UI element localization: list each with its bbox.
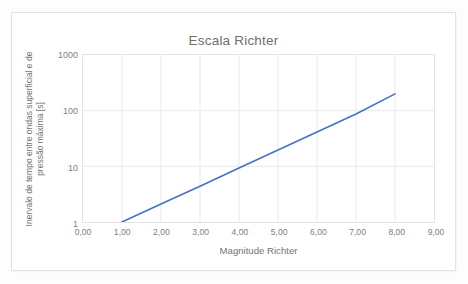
x-tick-label: 0,00 — [75, 227, 92, 237]
x-tick-label: 5,00 — [271, 227, 288, 237]
y-tick-label: 100 — [63, 106, 78, 116]
x-tick-label: 3,00 — [192, 227, 209, 237]
x-tick-label: 1,00 — [114, 227, 131, 237]
x-tick-label: 2,00 — [153, 227, 170, 237]
horizontal-gridlines — [83, 111, 434, 167]
x-tick-label: 6,00 — [310, 227, 327, 237]
x-tick-label: 8,00 — [388, 227, 405, 237]
plot-area: 1101001000 0,001,002,003,004,005,006,007… — [82, 54, 435, 223]
chart-frame: Escala Richter 1101001000 0,001,002,003,… — [11, 12, 456, 271]
y-axis-title-wrapper: Inervalo de tempo entre ondas superficia… — [20, 54, 50, 223]
y-axis-title: Inervalo de tempo entre ondas superficia… — [24, 46, 46, 232]
data-series-line — [122, 94, 395, 222]
vertical-gridlines — [122, 55, 395, 222]
y-tick-label: 10 — [68, 163, 78, 173]
chart-title: Escala Richter — [12, 33, 455, 48]
x-tick-label: 7,00 — [349, 227, 366, 237]
x-axis-title: Magnitude Richter — [82, 245, 435, 256]
plot-svg — [83, 55, 434, 222]
y-tick-label: 1000 — [58, 50, 78, 60]
series-line — [122, 94, 395, 222]
x-tick-label: 4,00 — [232, 227, 249, 237]
scanned-page: Escala Richter 1101001000 0,001,002,003,… — [0, 0, 468, 284]
x-tick-label: 9,00 — [428, 227, 445, 237]
